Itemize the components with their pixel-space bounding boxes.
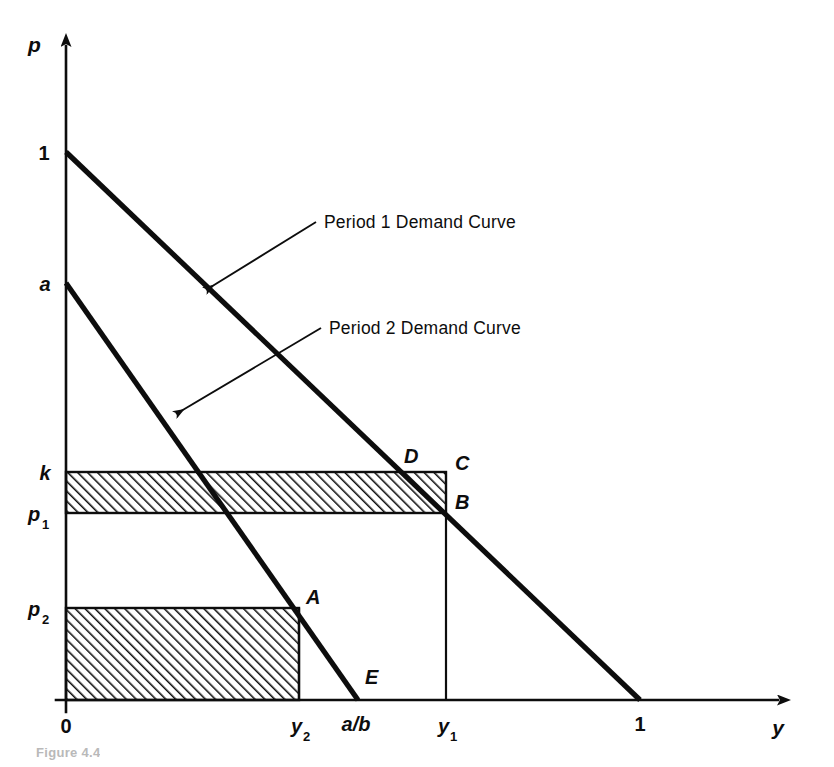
leader-line-period-1 [206, 222, 316, 290]
shaded-region-lower-block [66, 608, 299, 700]
x-tick-label-y2-base: y [290, 715, 303, 737]
shaded-region-upper-band [66, 472, 446, 513]
x-tick-label-y2: y 2 [290, 715, 310, 744]
leader-line-period-2 [176, 328, 321, 414]
x-tick-label-ab: a/b [342, 713, 371, 735]
y-tick-label-p1-base: p [27, 503, 40, 525]
y-tick-label-p1-sub: 1 [42, 517, 49, 532]
x-tick-label-y1-base: y [437, 715, 450, 737]
point-label-c: C [455, 452, 470, 474]
x-tick-label-origin: 0 [60, 715, 71, 737]
point-label-a: A [305, 586, 320, 608]
x-tick-label-y1-sub: 1 [450, 729, 457, 744]
point-label-b: B [455, 491, 469, 513]
point-label-d: D [404, 445, 418, 467]
figure-caption: Figure 4.4 [36, 745, 100, 767]
figure-container: Period 1 Demand Curve Period 2 Demand Cu… [0, 0, 834, 767]
y-axis-label-p: p [27, 33, 41, 56]
y-tick-label-p1: p 1 [27, 503, 49, 532]
y-tick-label-p2-base: p [27, 598, 40, 620]
demand-curve-diagram: Period 1 Demand Curve Period 2 Demand Cu… [0, 0, 834, 767]
y-tick-label-1: 1 [38, 142, 49, 164]
x-tick-label-y2-sub: 2 [303, 729, 310, 744]
y-tick-label-p2: p 2 [27, 598, 49, 627]
y-tick-label-a: a [39, 273, 50, 295]
x-tick-label-y1: y 1 [437, 715, 457, 744]
y-tick-label-p2-sub: 2 [42, 612, 49, 627]
y-tick-label-k: k [39, 462, 51, 484]
x-tick-label-1: 1 [634, 713, 645, 735]
annotation-period-2-demand-curve: Period 2 Demand Curve [329, 318, 521, 338]
point-label-e: E [365, 666, 379, 688]
x-axis-label-y: y [771, 716, 785, 739]
annotation-period-1-demand-curve: Period 1 Demand Curve [324, 212, 516, 232]
